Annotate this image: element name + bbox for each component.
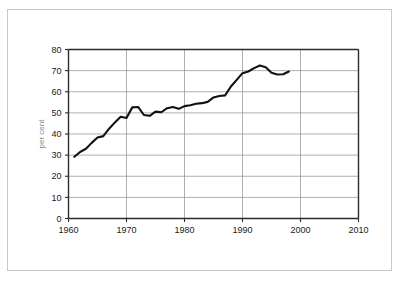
line-chart: 01020304050607080 1960197019801990200020…	[0, 0, 402, 282]
data-line-series-1	[74, 66, 289, 157]
y-axis-title: per cent	[37, 119, 46, 149]
x-tick-label-1960: 1960	[58, 225, 78, 235]
x-tick-label-1970: 1970	[116, 225, 136, 235]
chart-canvas: 01020304050607080 1960197019801990200020…	[0, 0, 402, 282]
page-root: 01020304050607080 1960197019801990200020…	[0, 0, 402, 282]
y-axis-tick-labels: 01020304050607080	[51, 45, 61, 224]
x-tick-label-2000: 2000	[290, 225, 310, 235]
y-tick-label-0: 0	[56, 214, 61, 224]
y-tick-label-40: 40	[51, 129, 61, 139]
y-tick-label-60: 60	[51, 87, 61, 97]
y-tick-label-10: 10	[51, 193, 61, 203]
y-tick-label-30: 30	[51, 150, 61, 160]
x-tick-label-2010: 2010	[348, 225, 368, 235]
y-tick-label-50: 50	[51, 108, 61, 118]
y-tick-label-70: 70	[51, 66, 61, 76]
gridlines-group	[69, 50, 359, 219]
y-tick-label-20: 20	[51, 171, 61, 181]
x-tick-label-1990: 1990	[232, 225, 252, 235]
x-tick-label-1980: 1980	[174, 225, 194, 235]
x-axis-tick-labels: 196019701980199020002010	[58, 225, 368, 235]
data-series-group	[74, 66, 289, 157]
y-tick-label-80: 80	[51, 45, 61, 55]
